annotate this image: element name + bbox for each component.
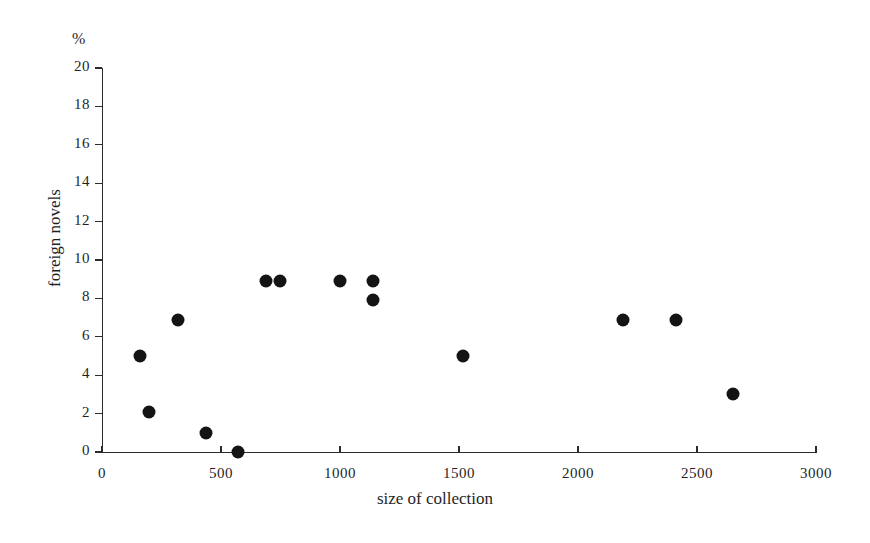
- y-tick-mark: [95, 144, 102, 145]
- y-tick-label: 18: [56, 96, 90, 113]
- x-tick-label: 2500: [657, 465, 737, 482]
- x-tick-mark: [339, 446, 340, 453]
- data-point: [726, 388, 739, 401]
- x-tick-label: 1000: [300, 465, 380, 482]
- x-tick-mark: [696, 446, 697, 453]
- y-tick-mark: [95, 336, 102, 337]
- y-tick-label: 4: [56, 365, 90, 382]
- data-point: [200, 426, 213, 439]
- percent-unit-label: %: [72, 30, 85, 48]
- y-tick-label: 14: [56, 173, 90, 190]
- x-tick-label: 0: [62, 465, 142, 482]
- data-point: [617, 313, 630, 326]
- data-point: [274, 275, 287, 288]
- y-tick-label: 10: [56, 250, 90, 267]
- x-tick-mark: [101, 446, 102, 453]
- data-point: [367, 275, 380, 288]
- x-tick-mark: [815, 446, 816, 453]
- x-tick-label: 3000: [776, 465, 856, 482]
- data-point: [367, 294, 380, 307]
- x-tick-label: 500: [181, 465, 261, 482]
- x-tick-mark: [220, 446, 221, 453]
- y-tick-label: 20: [56, 58, 90, 75]
- y-axis-line: [102, 68, 103, 453]
- x-tick-mark: [458, 446, 459, 453]
- data-point: [232, 446, 245, 459]
- y-tick-label: 6: [56, 327, 90, 344]
- x-tick-mark: [577, 446, 578, 453]
- y-tick-mark: [95, 183, 102, 184]
- data-point: [260, 275, 273, 288]
- x-axis-title: size of collection: [0, 489, 870, 509]
- y-tick-mark: [95, 375, 102, 376]
- x-tick-label: 2000: [538, 465, 618, 482]
- data-point: [669, 313, 682, 326]
- y-tick-label: 12: [56, 212, 90, 229]
- y-tick-label: 16: [56, 135, 90, 152]
- y-tick-mark: [95, 413, 102, 414]
- data-point: [172, 313, 185, 326]
- data-point: [334, 275, 347, 288]
- scatter-plot-figure: % foreign novels size of collection 0246…: [0, 0, 870, 543]
- x-tick-label: 1500: [419, 465, 499, 482]
- y-tick-label: 8: [56, 288, 90, 305]
- y-tick-mark: [95, 259, 102, 260]
- data-point: [143, 405, 156, 418]
- y-tick-label: 2: [56, 404, 90, 421]
- y-tick-mark: [95, 298, 102, 299]
- y-tick-label: 0: [56, 442, 90, 459]
- y-tick-mark: [95, 221, 102, 222]
- y-tick-mark: [95, 106, 102, 107]
- data-point: [457, 350, 470, 363]
- y-tick-mark: [95, 67, 102, 68]
- data-point: [134, 350, 147, 363]
